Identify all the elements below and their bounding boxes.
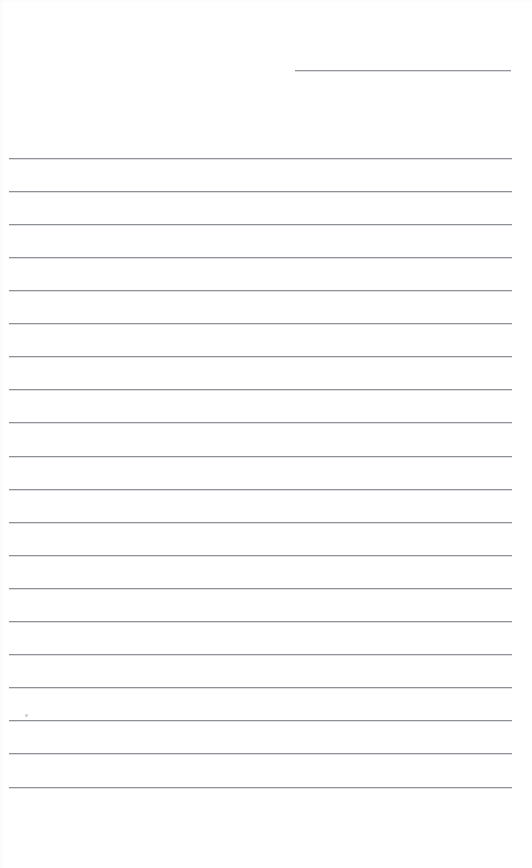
ruled-line xyxy=(9,323,512,324)
paper-left-edge-shading xyxy=(0,0,3,868)
ruled-line xyxy=(9,555,512,556)
ruled-line xyxy=(9,224,512,225)
ruled-line xyxy=(9,489,512,490)
ruled-line xyxy=(9,191,512,192)
ruled-line xyxy=(9,687,512,688)
ruled-line xyxy=(9,588,512,589)
paper-top-edge-shading xyxy=(0,0,532,3)
ruled-line xyxy=(9,356,512,357)
ruled-line xyxy=(9,158,512,159)
ruled-line xyxy=(9,720,512,721)
ruled-line xyxy=(9,257,512,258)
ruled-line xyxy=(9,522,512,523)
ruled-line xyxy=(9,290,512,291)
ruled-line xyxy=(9,621,512,622)
ruled-line xyxy=(9,456,512,457)
ruled-line xyxy=(9,654,512,655)
ruled-line xyxy=(9,422,512,423)
ruled-line xyxy=(9,787,512,788)
lined-paper-page xyxy=(0,0,532,868)
header-rule xyxy=(295,70,511,71)
ruled-line xyxy=(9,753,512,754)
ruled-line xyxy=(9,389,512,390)
pencil-speck xyxy=(25,714,28,717)
